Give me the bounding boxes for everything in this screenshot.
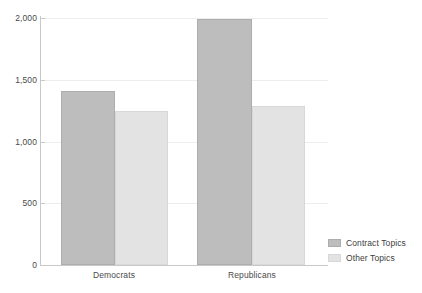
legend-label-other-topics: Other Topics <box>346 253 395 263</box>
legend: Contract Topics Other Topics <box>328 236 406 266</box>
bar-republicans-contract-topics <box>197 19 252 265</box>
legend-item-contract-topics: Contract Topics <box>328 236 406 249</box>
x-axis-label-republicans: Republicans <box>206 270 298 280</box>
bar-republicans-other-topics <box>252 106 305 265</box>
legend-swatch-icon-contract-topics <box>328 239 341 247</box>
bar-democrats-other-topics <box>115 111 168 265</box>
bar-chart: 2,000 1,500 1,000 500 0 Democrats Republ… <box>0 0 422 293</box>
bar-democrats-contract-topics <box>61 91 115 265</box>
legend-label-contract-topics: Contract Topics <box>346 238 406 248</box>
legend-item-other-topics: Other Topics <box>328 251 406 264</box>
x-axis-label-democrats: Democrats <box>69 270 159 280</box>
legend-swatch-icon-other-topics <box>328 254 341 262</box>
